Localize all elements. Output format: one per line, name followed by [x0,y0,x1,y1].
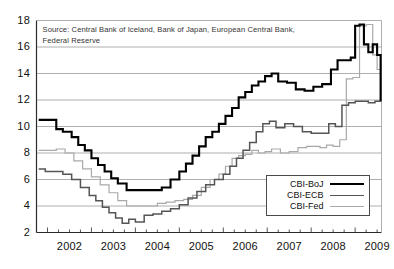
x-tick-2006: 2006 [229,240,261,252]
x-axis-minor-ticks [47,228,377,233]
x-tick-2004: 2004 [141,240,173,252]
x-tick-2007: 2007 [273,240,305,252]
legend-item-cbi-ecb: CBI-ECB [273,190,364,201]
legend-swatch-cbi-fed [330,206,364,207]
series-line-cbi-boj [39,24,382,190]
legend-swatch-cbi-boj [330,183,364,185]
y-tick-2: 2 [6,226,30,238]
legend-item-cbi-boj: CBI-BoJ [273,179,364,190]
x-tick-2003: 2003 [97,240,129,252]
y-tick-8: 8 [6,146,30,158]
x-tick-2009: 2009 [361,240,393,252]
y-tick-10: 10 [6,120,30,132]
y-tick-18: 18 [6,14,30,26]
y-tick-6: 6 [6,173,30,185]
source-note: Source: Central Bank of Iceland, Bank of… [43,24,295,47]
legend-label-cbi-boj: CBI-BoJ [290,179,324,189]
y-tick-14: 14 [6,67,30,79]
legend-item-cbi-fed: CBI-Fed [273,201,364,212]
y-tick-12: 12 [6,93,30,105]
y-tick-4: 4 [6,199,30,211]
y-tick-16: 16 [6,40,30,52]
chart-legend: CBI-BoJ CBI-ECB CBI-Fed [266,175,370,216]
legend-label-cbi-fed: CBI-Fed [290,201,324,211]
x-tick-2008: 2008 [317,240,349,252]
x-tick-2005: 2005 [185,240,217,252]
x-tick-2002: 2002 [53,240,85,252]
legend-label-cbi-ecb: CBI-ECB [287,190,324,200]
legend-swatch-cbi-ecb [330,195,364,196]
chart-container: 24681012141618 2002200320042005200620072… [0,0,394,269]
